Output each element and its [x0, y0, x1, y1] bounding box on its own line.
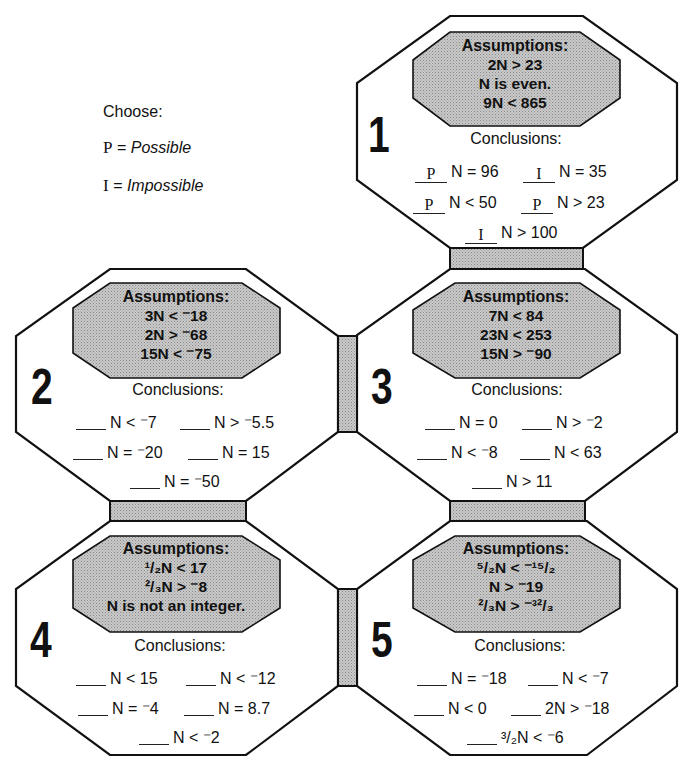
answer-blank[interactable]: [73, 443, 103, 460]
assumptions-title: Assumptions:: [412, 287, 620, 306]
legend-meaning: Impossible: [127, 177, 203, 194]
puzzle-number-2: 2: [31, 362, 53, 412]
puzzle-number-3: 3: [371, 362, 393, 412]
conclusion-item: N < 15: [76, 669, 158, 689]
assumptions-5: Assumptions: ⁵/₂N < ⁻¹⁵/₂ N > ⁻19 ²/₃N >…: [412, 539, 620, 615]
assumptions-title: Assumptions:: [72, 539, 280, 558]
assumption: ⁵/₂N < ⁻¹⁵/₂: [412, 558, 620, 577]
answer-blank[interactable]: [511, 699, 541, 716]
conclusion-item: IN > 100: [465, 223, 557, 244]
conclusion-item: PN < 50: [413, 193, 497, 214]
answer-blank[interactable]: [139, 728, 169, 745]
conclusion-item: N < ⁻7: [528, 669, 609, 689]
conclusion-item: N < 0: [414, 699, 487, 719]
conclusion-item: N = 0: [425, 413, 498, 433]
assumption: 2N > 23: [411, 55, 619, 74]
answer-blank[interactable]: [520, 443, 550, 460]
connector-4-5: [338, 589, 357, 686]
answer-blank[interactable]: [130, 472, 160, 489]
connector-3-5: [450, 501, 585, 521]
answer-blank[interactable]: [76, 669, 106, 686]
assumptions-title: Assumptions:: [72, 287, 280, 306]
legend-letter: I: [103, 176, 109, 195]
answer-blank[interactable]: [414, 699, 444, 716]
assumptions-title: Assumptions:: [412, 539, 620, 558]
assumption: N is not an integer.: [72, 596, 280, 615]
conclusion-item: N = ⁻4: [78, 699, 159, 719]
connector-1-3: [450, 248, 583, 269]
conclusion-item: N < ⁻8: [417, 443, 498, 463]
assumption: 15N > ⁻90: [412, 344, 620, 363]
answer-blank[interactable]: [417, 669, 447, 686]
answer-blank[interactable]: [425, 413, 455, 430]
answer-blank[interactable]: [522, 413, 552, 430]
answer-blank[interactable]: [472, 472, 502, 489]
assumption: 9N < 865: [411, 93, 619, 112]
conclusion-item: IN = 35: [523, 162, 607, 183]
assumption: 15N < ⁻75: [72, 344, 280, 363]
assumption: N > ⁻19: [412, 577, 620, 596]
conclusions-title-3: Conclusions:: [417, 381, 617, 399]
answer-blank[interactable]: [467, 728, 497, 745]
conclusions-title-1: Conclusions:: [416, 130, 616, 148]
conclusion-item: N < 63: [520, 443, 602, 463]
conclusion-item: PN > 23: [521, 193, 605, 214]
assumptions-3: Assumptions: 7N < 84 23N < 253 15N > ⁻90: [412, 287, 620, 363]
conclusion-item: N = ⁻18: [417, 669, 507, 689]
conclusion-item: N < ⁻7: [76, 413, 157, 433]
connector-2-3: [338, 336, 357, 432]
conclusion-item: N = ⁻50: [130, 472, 220, 492]
puzzle-number-4: 4: [30, 615, 52, 665]
legend-possible: P = Possible: [103, 138, 191, 158]
conclusion-item: N > 11: [472, 472, 552, 492]
conclusion-item: N = 15: [188, 443, 270, 463]
answer-blank[interactable]: [78, 699, 108, 716]
legend-heading: Choose:: [103, 103, 163, 121]
answer-blank[interactable]: P: [521, 197, 553, 214]
conclusion-item: N > ⁻2: [522, 413, 603, 433]
connector-2-4: [110, 501, 246, 521]
puzzle-number-5: 5: [371, 615, 393, 665]
conclusion-item: PN = 96: [415, 162, 499, 183]
legend-impossible: I = Impossible: [103, 176, 203, 196]
assumptions-4: Assumptions: ¹/₂N < 17 ²/₃N > ⁻8 N is no…: [72, 539, 280, 615]
answer-blank[interactable]: P: [415, 166, 447, 183]
answer-blank[interactable]: [528, 669, 558, 686]
answer-blank[interactable]: P: [413, 197, 445, 214]
assumption: 7N < 84: [412, 306, 620, 325]
legend-meaning: Possible: [131, 139, 191, 156]
assumption: 3N < ⁻18: [72, 306, 280, 325]
assumptions-2: Assumptions: 3N < ⁻18 2N > ⁻68 15N < ⁻75: [72, 287, 280, 363]
answer-blank[interactable]: I: [465, 227, 497, 244]
answer-blank[interactable]: [188, 443, 218, 460]
assumption: ¹/₂N < 17: [72, 558, 280, 577]
legend-letter: P: [103, 138, 112, 157]
conclusion-item: N = ⁻20: [73, 443, 163, 463]
conclusions-title-2: Conclusions:: [78, 381, 278, 399]
assumption: 2N > ⁻68: [72, 325, 280, 344]
answer-blank[interactable]: [184, 699, 214, 716]
conclusion-item: 2N > ⁻18: [511, 699, 609, 719]
answer-blank[interactable]: [76, 413, 106, 430]
conclusions-title-5: Conclusions:: [420, 637, 620, 655]
answer-blank[interactable]: [180, 413, 210, 430]
answer-blank[interactable]: [417, 443, 447, 460]
conclusion-item: N = 8.7: [184, 699, 270, 719]
assumption: 23N < 253: [412, 325, 620, 344]
conclusion-item: N < ⁻2: [139, 728, 220, 748]
conclusion-item: ³/₂N < ⁻6: [467, 728, 564, 748]
answer-blank[interactable]: [186, 669, 216, 686]
assumption: ²/₃N > ⁻8: [72, 577, 280, 596]
puzzle-number-1: 1: [368, 110, 390, 160]
assumptions-title: Assumptions:: [411, 36, 619, 55]
assumption: N is even.: [411, 74, 619, 93]
assumption: ²/₃N > ⁻³²/₃: [412, 596, 620, 615]
conclusion-item: N < ⁻12: [186, 669, 276, 689]
conclusions-title-4: Conclusions:: [80, 637, 280, 655]
answer-blank[interactable]: I: [523, 166, 555, 183]
conclusion-item: N > ⁻5.5: [180, 413, 274, 433]
assumptions-1: Assumptions: 2N > 23 N is even. 9N < 865: [411, 36, 619, 112]
